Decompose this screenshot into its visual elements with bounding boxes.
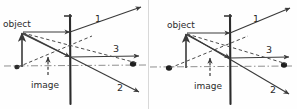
ray-3-incident (23, 34, 70, 57)
ray-1-refracted (230, 8, 290, 33)
ray-2-label: 2 (270, 84, 276, 95)
ray-2-label: 2 (117, 82, 123, 93)
image-label: image (31, 80, 59, 90)
object-label: object (167, 20, 195, 30)
object-label: object (3, 19, 31, 29)
ray-1-refracted (70, 7, 141, 32)
ray-1-label: 1 (253, 13, 259, 24)
ray-3-refracted (70, 56, 139, 57)
lens-plane (70, 15, 71, 104)
ray-1-label: 1 (95, 13, 101, 24)
figure-canvas: object image 1 2 3 (0, 0, 297, 109)
ray-diagram-panel-left: object image 1 2 3 (0, 0, 149, 109)
ray-diagram-panel-right: object image 1 2 3 (148, 0, 297, 109)
ray-3-label: 3 (266, 44, 272, 55)
focal-point-right-dot (281, 62, 287, 68)
image-label: image (194, 81, 222, 91)
ray-3-refracted (230, 57, 289, 58)
ray-3-label: 3 (113, 43, 119, 54)
ray-3-incident (187, 35, 230, 58)
construction-line-upper (23, 33, 137, 63)
optical-axis (4, 65, 146, 66)
